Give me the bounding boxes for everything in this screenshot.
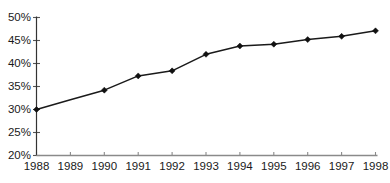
data-point-marker bbox=[203, 51, 209, 57]
y-tick-label: 45% bbox=[8, 34, 31, 46]
data-point-marker bbox=[135, 73, 141, 79]
x-tick-label: 1992 bbox=[159, 160, 185, 172]
y-tick-label: 35% bbox=[8, 80, 31, 92]
x-tick-label: 1994 bbox=[227, 160, 253, 172]
data-point-marker bbox=[373, 28, 379, 34]
data-point-marker bbox=[305, 37, 311, 43]
series-markers bbox=[34, 28, 379, 113]
line-chart: 20%25%30%35%40%45%50% 198819891990199119… bbox=[0, 0, 390, 183]
data-point-marker bbox=[339, 33, 345, 39]
x-tick-label: 1993 bbox=[193, 160, 219, 172]
x-tick-label: 1989 bbox=[58, 160, 84, 172]
x-tick-label: 1996 bbox=[295, 160, 321, 172]
y-tick-label: 25% bbox=[8, 126, 31, 138]
x-tick-label: 1995 bbox=[261, 160, 287, 172]
y-tick-label: 30% bbox=[8, 103, 31, 115]
data-point-marker bbox=[169, 68, 175, 74]
y-tick-label: 40% bbox=[8, 57, 31, 69]
y-tick-label: 50% bbox=[8, 11, 31, 23]
data-point-marker bbox=[271, 41, 277, 47]
x-tick-label: 1990 bbox=[92, 160, 118, 172]
data-point-marker bbox=[237, 43, 243, 49]
x-tick-label: 1998 bbox=[363, 160, 389, 172]
data-point-marker bbox=[34, 107, 40, 113]
x-tick-labels: 1988198919901991199219931994199519961997… bbox=[24, 160, 389, 172]
chart-page: 20%25%30%35%40%45%50% 198819891990199119… bbox=[0, 0, 390, 183]
data-point-marker bbox=[101, 87, 107, 93]
x-tick-label: 1988 bbox=[24, 160, 50, 172]
x-tick-label: 1991 bbox=[125, 160, 151, 172]
x-tick-label: 1997 bbox=[329, 160, 355, 172]
series-line bbox=[37, 31, 376, 110]
y-tick-labels: 20%25%30%35%40%45%50% bbox=[8, 11, 31, 161]
